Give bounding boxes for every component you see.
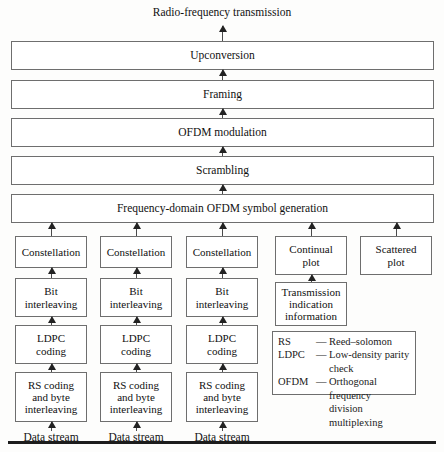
rs-coding-box-2: RS coding and byte interleaving (100, 372, 172, 422)
arrow-upconversion-to-output (222, 26, 223, 41)
ldpc-coding-box-1: LDPC coding (15, 325, 87, 364)
arrow-constellation-1-to-symbol-generation (51, 223, 52, 236)
rs-coding-box-1: RS coding and byte interleaving (15, 372, 87, 422)
arrow-continual-plot-to-symbol-generation (311, 223, 312, 236)
arrow-rs-coding-1-to-ldpc-1 (51, 364, 52, 372)
legend-abbr-ofdm: OFDM (278, 375, 316, 388)
stage-box-upconversion: Upconversion (11, 41, 434, 70)
legend-definition-rs: Reed–solomon (329, 335, 411, 348)
arrow-data-stream-1-to-rs-coding-1 (51, 422, 52, 431)
arrow-symbol-generation-to-scrambling (222, 185, 223, 194)
arrow-rs-coding-3-to-ldpc-3 (222, 364, 223, 372)
arrow-bit-interleaving-3-to-constellation-3 (222, 268, 223, 278)
arrow-rs-coding-2-to-ldpc-2 (136, 364, 137, 372)
legend-definition-ofdm: Orthogonal frequency (329, 375, 411, 402)
bottom-divider-rule (8, 441, 436, 444)
legend-dash-ldpc: — (316, 348, 329, 361)
arrow-ldpc-1-to-bit-interleaving-1 (51, 317, 52, 325)
rs-coding-box-3: RS coding and byte interleaving (186, 372, 258, 422)
legend-continuation-ldpc: check (329, 362, 411, 375)
constellation-box-2: Constellation (100, 236, 172, 268)
bit-interleaving-box-3: Bit interleaving (186, 278, 258, 317)
arrow-scattered-plot-to-symbol-generation (396, 223, 397, 236)
legend-row-ofdm: OFDM — Orthogonal frequency (278, 375, 411, 402)
legend-dash-rs: — (316, 335, 329, 348)
legend-row-rs: RS — Reed–solomon (278, 335, 411, 348)
arrow-ldpc-3-to-bit-interleaving-3 (222, 317, 223, 325)
transmission-indication-box: Transmission indication information (275, 282, 347, 326)
ldpc-coding-box-3: LDPC coding (186, 325, 258, 364)
legend-continuation-ofdm: division multiplexing (329, 402, 411, 429)
constellation-box-3: Constellation (186, 236, 258, 268)
continual-plot-box: Continual plot (275, 236, 347, 275)
arrow-ldpc-2-to-bit-interleaving-2 (136, 317, 137, 325)
stage-box-symbol-generation: Frequency-domain OFDM symbol generation (11, 194, 434, 223)
diagram-title: Radio-frequency transmission (0, 6, 444, 18)
bit-interleaving-box-1: Bit interleaving (15, 278, 87, 317)
block-diagram: Radio-frequency transmission Upconversio… (0, 0, 444, 452)
stage-box-scrambling: Scrambling (11, 156, 434, 185)
bit-interleaving-box-2: Bit interleaving (100, 278, 172, 317)
legend-box: RS — Reed–solomon LDPC — Low-density par… (272, 331, 416, 395)
stage-box-framing: Framing (11, 80, 434, 109)
legend-dash-ofdm: — (316, 375, 329, 388)
legend-definition-ldpc: Low-density parity (329, 348, 411, 361)
arrow-framing-to-upconversion (222, 70, 223, 80)
arrow-transmission-info-to-continual-plot (311, 275, 312, 282)
constellation-box-1: Constellation (15, 236, 87, 268)
arrow-constellation-3-to-symbol-generation (222, 223, 223, 236)
arrow-ofdm-modulation-to-framing (222, 109, 223, 118)
arrow-scrambling-to-ofdm-modulation (222, 147, 223, 156)
stage-box-ofdm-modulation: OFDM modulation (11, 118, 434, 147)
arrow-bit-interleaving-2-to-constellation-2 (136, 268, 137, 278)
legend-row-ldpc: LDPC — Low-density parity (278, 348, 411, 361)
legend-abbr-rs: RS (278, 335, 316, 348)
scattered-plot-box: Scattered plot (360, 236, 432, 275)
arrow-bit-interleaving-1-to-constellation-1 (51, 268, 52, 278)
arrow-data-stream-3-to-rs-coding-3 (222, 422, 223, 431)
legend-abbr-ldpc: LDPC (278, 348, 316, 361)
arrow-constellation-2-to-symbol-generation (136, 223, 137, 236)
arrow-data-stream-2-to-rs-coding-2 (136, 422, 137, 431)
ldpc-coding-box-2: LDPC coding (100, 325, 172, 364)
